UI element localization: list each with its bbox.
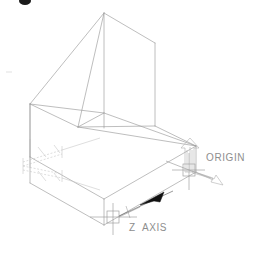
isometric-drawing-svg xyxy=(0,0,253,256)
zaxis-leader-arrowhead-icon xyxy=(140,192,164,205)
technical-drawing-canvas: ORIGIN Z AXIS xyxy=(0,0,253,256)
solid-block-outline xyxy=(30,13,196,225)
zaxis-iso-arm xyxy=(119,207,140,217)
box-top-face-edge-back-right xyxy=(104,113,196,146)
dimension-line-upper xyxy=(23,150,62,162)
origin-down-right-arrow-inner-line xyxy=(195,172,213,180)
dimension-tick-lower-a xyxy=(38,171,46,181)
origin-iso-arm-left xyxy=(166,161,189,170)
box-interior-edge-from-slopefoot xyxy=(78,113,104,127)
dimension-tick-upper-a xyxy=(38,147,46,157)
box-top-face-edge-front-right xyxy=(104,146,196,199)
wedge-top-back-edge xyxy=(104,13,155,43)
box-top-face-edge-front-left xyxy=(30,157,104,199)
wedge-top-section xyxy=(30,13,155,157)
dimension-tick-lower-b xyxy=(54,173,60,181)
dimension-tick-upper-b xyxy=(54,145,60,153)
z-axis-label: Z AXIS xyxy=(129,222,167,233)
cursor-arrow-icon xyxy=(19,0,31,5)
wedge-left-slope-foot-edge xyxy=(30,104,78,127)
zaxis-leader-group xyxy=(119,191,173,218)
dimension-detail-block xyxy=(23,138,100,190)
origin-label: ORIGIN xyxy=(206,152,245,163)
box-interior-edge-slopefoot-to-front xyxy=(78,127,196,146)
cursor-arrow-blob xyxy=(19,0,31,5)
dimension-leader-to-box xyxy=(62,138,100,150)
origin-marker-group xyxy=(166,153,211,190)
dimension-line-lower-2 xyxy=(23,166,62,174)
wedge-slope-edge xyxy=(78,13,104,127)
wedge-top-left-edge xyxy=(30,13,104,104)
box-top-face-edge-back-left xyxy=(30,104,104,113)
dimension-leader-to-box-lower xyxy=(62,178,100,190)
box-bottom-edge-left xyxy=(30,183,104,225)
